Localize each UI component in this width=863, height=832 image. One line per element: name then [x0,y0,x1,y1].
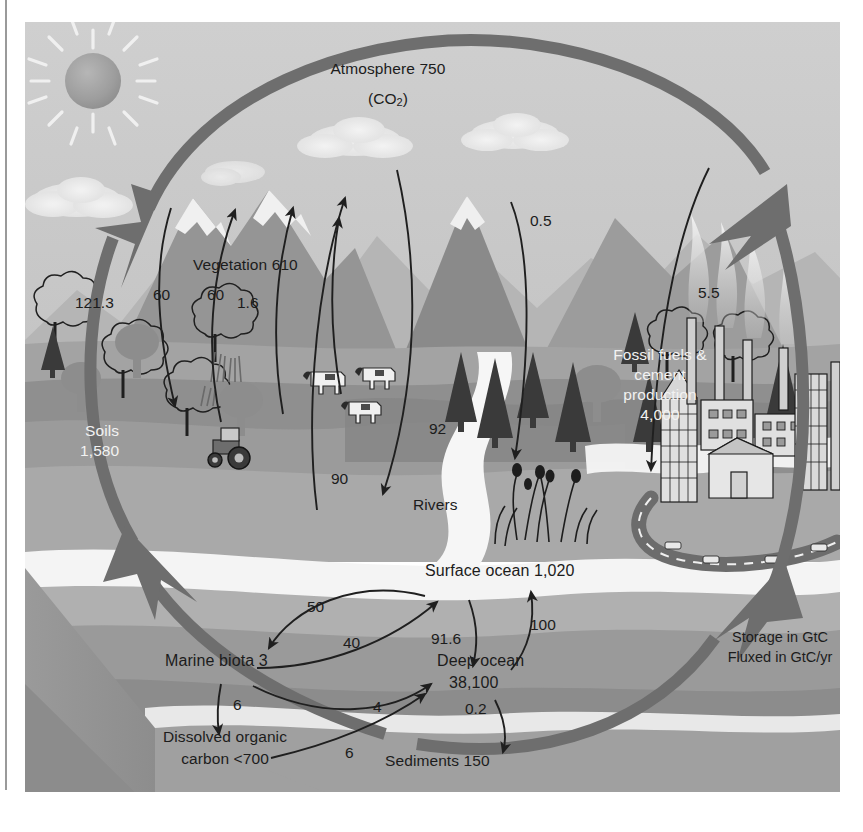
flux-6-doc-deep: 6 [345,744,354,762]
sediments-label: Sediments 150 [385,752,490,770]
atmosphere-label: Atmosphere 750 [283,60,493,78]
flux-0-5: 0.5 [530,212,552,230]
vegetation-label: Vegetation 610 [193,256,298,274]
fossil-fuels-label-line1: Fossil fuels & [585,346,735,364]
flux-121-3: 121.3 [75,294,114,312]
flux-60-soil: 60 [207,286,224,304]
flux-5-5: 5.5 [698,284,720,302]
flux-40: 40 [343,634,360,652]
flux-100: 100 [530,616,556,634]
soils-label-line2: 1,580 [80,442,119,460]
flux-1-6: 1.6 [237,294,259,312]
carbon-cycle-diagram: Atmosphere 750 (CO2) Vegetation 610 Soil… [0,0,863,832]
rivers-label: Rivers [413,496,458,514]
marine-biota-label: Marine biota 3 [165,652,268,671]
deep-ocean-label-line1: Deep ocean [437,652,524,671]
flux-92: 92 [429,420,446,438]
page-frame-rule [5,0,7,790]
soils-label-line1: Soils [85,422,119,440]
surface-ocean-label: Surface ocean 1,020 [425,562,575,581]
flux-90: 90 [331,470,348,488]
diagram-scene: Atmosphere 750 (CO2) Vegetation 610 Soil… [25,22,840,792]
flux-50: 50 [307,598,324,616]
deep-ocean-label-line2: 38,100 [449,674,499,693]
fossil-fuels-label-line4: 4,000 [585,406,735,424]
flux-4: 4 [373,698,382,716]
flux-6-biota-doc: 6 [233,696,242,714]
fossil-fuels-label-line2: cement [585,366,735,384]
legend-line1: Storage in GtC [695,628,840,647]
flux-0-2: 0.2 [465,700,487,718]
legend-line2: Fluxed in GtC/yr [695,648,840,667]
doc-label-line2: carbon <700 [125,750,325,768]
doc-label-line1: Dissolved organic [125,728,325,746]
flux-91-6: 91.6 [431,630,461,648]
flux-60-plant: 60 [153,286,170,304]
fossil-fuels-label-line3: production [585,386,735,404]
co2-label: (CO2) [283,90,493,109]
